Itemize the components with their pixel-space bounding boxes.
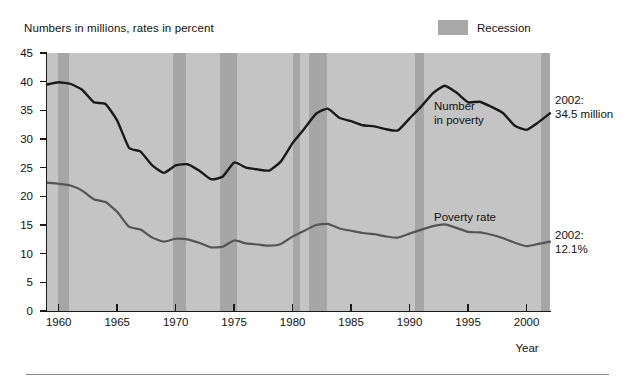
series-label-poverty-rate: Poverty rate: [434, 211, 496, 225]
y-axis-tick-label: 15: [11, 219, 33, 231]
y-axis-tick-mark: [40, 253, 46, 254]
chart-subtitle: Numbers in millions, rates in percent: [24, 22, 214, 34]
y-axis-tick-label: 20: [11, 190, 33, 202]
x-axis-line: [46, 311, 551, 312]
x-axis-tick-label: 1975: [221, 316, 247, 328]
series-label-number-line2: in poverty: [434, 114, 484, 128]
end-note-poverty-rate: 2002: 12.1%: [555, 228, 588, 256]
series-layer: [47, 53, 550, 311]
y-axis-tick-mark: [40, 138, 46, 139]
y-axis-tick-mark: [40, 282, 46, 283]
y-axis-tick-mark: [40, 224, 46, 225]
plot-area: [47, 53, 550, 311]
end-note-number-year: 2002:: [555, 93, 613, 107]
x-axis-tick-label: 1965: [104, 316, 130, 328]
x-axis-tick-label: 1970: [163, 316, 189, 328]
x-axis-tick-mark: [526, 304, 527, 312]
x-axis-tick-mark: [350, 304, 351, 312]
x-axis-tick-mark: [409, 304, 410, 312]
y-axis-line: [46, 52, 47, 312]
footer-divider: [26, 374, 609, 375]
y-axis-tick-mark: [40, 52, 46, 53]
y-axis-tick-label: 30: [11, 133, 33, 145]
x-axis-tick-mark: [175, 304, 176, 312]
x-axis-tick-label: 1960: [46, 316, 72, 328]
y-axis-tick-label: 0: [11, 305, 33, 317]
x-axis-tick-label: 1995: [455, 316, 481, 328]
series-label-number-line1: Number: [434, 100, 484, 114]
x-axis-tick-label: 2000: [514, 316, 540, 328]
y-axis-tick-mark: [40, 167, 46, 168]
y-axis-tick-label: 25: [11, 162, 33, 174]
x-axis-tick-label: 1990: [397, 316, 423, 328]
x-axis-tick-mark: [467, 304, 468, 312]
series-label-number-in-poverty: Number in poverty: [434, 100, 484, 127]
legend: Recession: [438, 20, 531, 35]
end-note-rate-year: 2002:: [555, 228, 588, 242]
end-note-rate-value: 12.1%: [555, 242, 588, 256]
x-axis-tick-mark: [116, 304, 117, 312]
end-note-number-value: 34.5 million: [555, 107, 613, 121]
y-axis-tick-label: 40: [11, 76, 33, 88]
x-axis-tick-label: 1980: [280, 316, 306, 328]
legend-label-recession: Recession: [477, 22, 531, 34]
x-axis-tick-label: 1985: [338, 316, 364, 328]
x-axis-tick-mark: [233, 304, 234, 312]
x-axis-tick-mark: [58, 304, 59, 312]
x-axis-tick-mark: [292, 304, 293, 312]
recession-swatch-icon: [438, 20, 468, 35]
end-note-number-in-poverty: 2002: 34.5 million: [555, 93, 613, 121]
y-axis-tick-mark: [40, 310, 46, 311]
x-axis-title: Year: [515, 342, 538, 354]
y-axis-tick-mark: [40, 81, 46, 82]
y-axis-tick-mark: [40, 196, 46, 197]
y-axis-tick-label: 35: [11, 104, 33, 116]
poverty-chart-figure: Numbers in millions, rates in percent Re…: [0, 0, 629, 390]
y-axis-tick-label: 10: [11, 248, 33, 260]
y-axis-tick-label: 45: [11, 47, 33, 59]
y-axis-tick-mark: [40, 110, 46, 111]
y-axis-tick-label: 5: [11, 276, 33, 288]
line-number-in-poverty: [47, 82, 550, 179]
